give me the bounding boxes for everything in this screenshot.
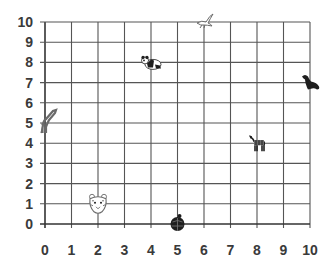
x-tick-label: 2 <box>86 243 110 257</box>
coordinate-grid: 012345678910 012345678910 <box>0 0 333 273</box>
x-tick-label: 4 <box>139 243 163 257</box>
x-tick-label: 8 <box>245 243 269 257</box>
y-tick-label: 1 <box>7 197 33 211</box>
y-tick-label: 4 <box>7 136 33 150</box>
x-tick-label: 9 <box>272 243 296 257</box>
y-tick-label: 9 <box>7 35 33 49</box>
y-tick-label: 0 <box>7 217 33 231</box>
y-tick-label: 6 <box>7 96 33 110</box>
y-tick-label: 10 <box>7 15 33 29</box>
y-tick-label: 8 <box>7 55 33 69</box>
x-tick-label: 10 <box>298 243 322 257</box>
x-tick-label: 7 <box>219 243 243 257</box>
y-tick-label: 7 <box>7 76 33 90</box>
x-tick-label: 3 <box>113 243 137 257</box>
x-tick-label: 0 <box>33 243 57 257</box>
y-tick-label: 5 <box>7 116 33 130</box>
x-tick-label: 6 <box>192 243 216 257</box>
x-tick-label: 1 <box>60 243 84 257</box>
bird-icon <box>197 14 213 28</box>
grid-lines <box>0 0 333 273</box>
giraffe-icon <box>41 110 56 133</box>
tiger-icon <box>90 194 107 213</box>
y-tick-label: 3 <box>7 156 33 170</box>
y-tick-label: 2 <box>7 177 33 191</box>
x-tick-label: 5 <box>166 243 190 257</box>
